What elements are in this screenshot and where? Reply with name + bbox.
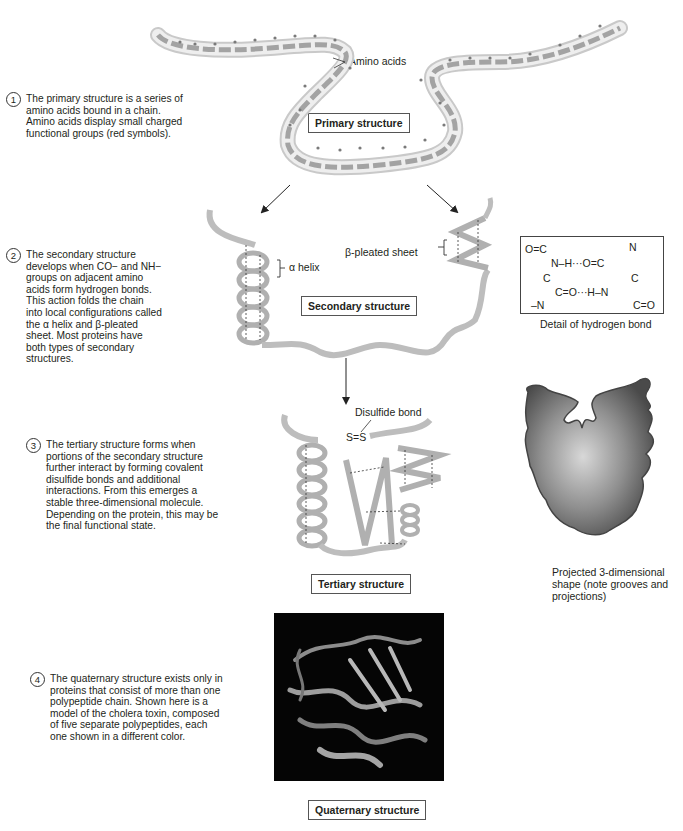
primary-chain — [158, 24, 620, 167]
protein-structure-diagram — [0, 0, 683, 831]
arrow-to-alpha — [262, 185, 290, 212]
tertiary-chain — [284, 415, 440, 553]
arrow-to-beta — [427, 185, 457, 212]
secondary-chain — [210, 198, 491, 355]
projected-3d-shape — [525, 379, 653, 535]
cholera-toxin-model — [290, 637, 425, 765]
